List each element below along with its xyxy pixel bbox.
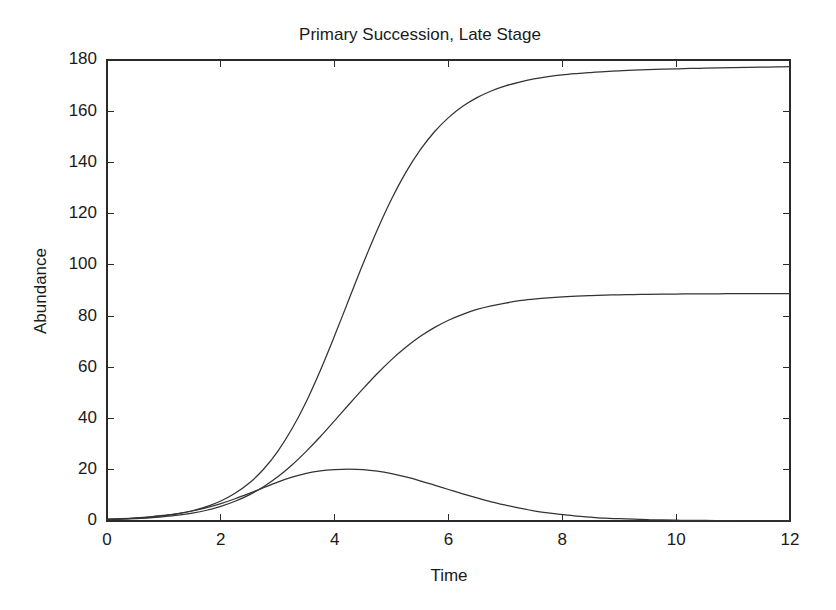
y-tick-label: 40 [78,408,97,427]
primary-succession-chart: Primary Succession, Late Stage 020406080… [0,0,836,610]
y-tick-label: 160 [69,101,97,120]
x-tick-label: 6 [444,530,453,549]
figure-canvas: Primary Succession, Late Stage 020406080… [0,0,836,610]
x-tick-label: 10 [667,530,686,549]
chart-title: Primary Succession, Late Stage [299,25,541,44]
y-tick-label: 120 [69,203,97,222]
x-tick-label: 0 [102,530,111,549]
y-axis-title: Abundance [31,248,50,334]
y-tick-label: 140 [69,152,97,171]
x-tick-label: 12 [781,530,800,549]
y-tick-label: 80 [78,306,97,325]
y-tick-label: 100 [69,254,97,273]
y-tick-label: 0 [88,510,97,529]
y-tick-label: 60 [78,357,97,376]
x-tick-label: 4 [330,530,339,549]
x-axis-title: Time [430,566,467,585]
x-tick-label: 8 [558,530,567,549]
x-tick-label: 2 [216,530,225,549]
y-tick-label: 180 [69,49,97,68]
y-tick-label: 20 [78,459,97,478]
